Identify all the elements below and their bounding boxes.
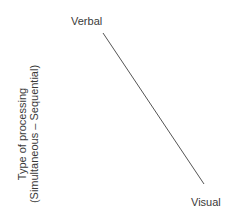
visual-endpoint-label: Visual [191,196,221,208]
diagram-canvas [0,0,232,217]
verbal-to-visual-line [103,33,204,184]
